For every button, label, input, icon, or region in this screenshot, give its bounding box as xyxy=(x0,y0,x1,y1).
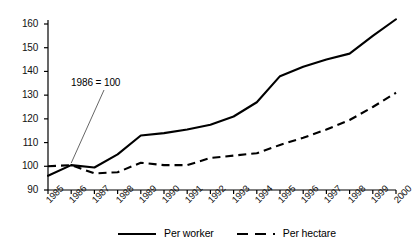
y-axis-tick-label: 130 xyxy=(10,90,38,100)
y-axis-tick-label: 140 xyxy=(10,66,38,76)
chart-container: 90100110120130140150160 1985198619871988… xyxy=(0,0,415,252)
legend-label-per-worker: Per worker xyxy=(164,228,214,239)
legend-item-per-worker: Per worker xyxy=(117,228,214,239)
legend-label-per-hectare: Per hectare xyxy=(283,228,336,239)
chart-plot-area xyxy=(0,0,415,252)
annotation-leader-group xyxy=(71,90,104,163)
legend-item-per-hectare: Per hectare xyxy=(236,228,336,239)
y-axis-tick-label: 160 xyxy=(10,19,38,29)
y-axis-tick-label: 110 xyxy=(10,138,38,148)
chart-legend: Per worker Per hectare xyxy=(117,228,336,239)
y-axis-tick-label: 90 xyxy=(10,185,38,195)
y-axis-tick-label: 150 xyxy=(10,43,38,53)
legend-swatch-dashed-icon xyxy=(236,229,276,239)
series-line-per-hectare xyxy=(48,93,396,174)
legend-swatch-solid-icon xyxy=(117,229,157,239)
annotation-leader-line xyxy=(71,90,104,163)
y-axis-tick-label: 100 xyxy=(10,161,38,171)
y-axis-tick-label: 120 xyxy=(10,114,38,124)
annotation-label: 1986 = 100 xyxy=(71,77,120,88)
